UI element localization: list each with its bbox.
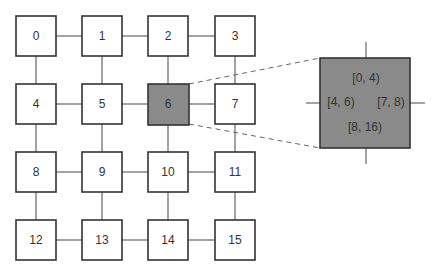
svg-text:9: 9 [99,165,106,179]
range-right: [7, 8) [377,95,404,109]
svg-text:0: 0 [33,29,40,43]
svg-text:4: 4 [33,97,40,111]
zoom-panel: [0, 4) [4, 6) [7, 8) [8, 16) [306,42,425,164]
edges [36,36,235,240]
node-14: 14 [148,220,188,260]
range-bottom: [8, 16) [348,120,382,134]
node-5: 5 [82,84,122,124]
svg-text:5: 5 [99,97,106,111]
svg-text:13: 13 [95,233,109,247]
node-12: 12 [16,220,56,260]
node-9: 9 [82,152,122,192]
svg-text:10: 10 [161,165,175,179]
node-3: 3 [215,16,255,56]
node-15: 15 [215,220,255,260]
svg-text:6: 6 [165,97,172,111]
range-left: [4, 6) [327,95,354,109]
node-7: 7 [215,84,255,124]
svg-text:2: 2 [165,29,172,43]
svg-text:15: 15 [228,233,242,247]
svg-text:14: 14 [161,233,175,247]
svg-text:7: 7 [232,97,239,111]
svg-text:8: 8 [33,165,40,179]
svg-text:3: 3 [232,29,239,43]
node-10: 10 [148,152,188,192]
node-13: 13 [82,220,122,260]
zoom-line-bottom [189,124,320,148]
range-top: [0, 4) [352,71,379,85]
node-4: 4 [16,84,56,124]
svg-text:1: 1 [99,29,106,43]
node-11: 11 [215,152,255,192]
node-8: 8 [16,152,56,192]
node-0: 0 [16,16,56,56]
node-2: 2 [148,16,188,56]
node-6-highlighted: 6 [148,84,189,125]
mesh-diagram: 0 1 2 3 4 5 6 7 8 9 10 11 12 13 14 15 [0… [0,0,437,277]
node-1: 1 [82,16,122,56]
zoom-line-top [189,58,320,84]
svg-text:11: 11 [229,165,242,179]
svg-text:12: 12 [29,233,43,247]
